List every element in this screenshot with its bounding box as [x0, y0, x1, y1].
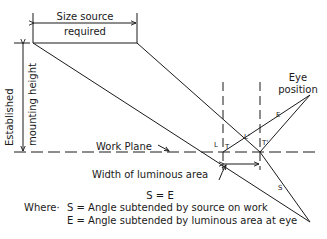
- eye-position-label-line1: Eye: [278, 72, 318, 83]
- where-prefix: Where·: [24, 202, 60, 213]
- s-definition: S = Angle subtended by source on work: [67, 202, 268, 213]
- size-source-label-line2: required: [44, 26, 126, 37]
- angle-E-label: E: [276, 111, 280, 119]
- point-T-prime-label: T': [262, 139, 268, 147]
- e-definition: E = Angle subtended by luminous area at …: [67, 215, 297, 226]
- size-source-label-line1: Size source: [44, 11, 126, 22]
- point-T-label: T: [225, 143, 229, 151]
- width-luminous-area-label: Width of luminous area: [92, 169, 208, 180]
- work-plane-leader: [158, 145, 169, 151]
- work-plane-label: Work Plane: [96, 141, 152, 152]
- mounting-height-label-line2: mounting height: [27, 63, 38, 146]
- equation: S = E: [130, 190, 190, 201]
- mounting-height-label-line1: Established: [4, 88, 15, 146]
- ray-source-right: [137, 43, 260, 152]
- angle-S-label: S: [278, 184, 282, 192]
- point-L-label: L: [214, 141, 218, 149]
- point-L-prime-label: L': [244, 133, 250, 141]
- eye-position-label-line2: position: [268, 84, 327, 95]
